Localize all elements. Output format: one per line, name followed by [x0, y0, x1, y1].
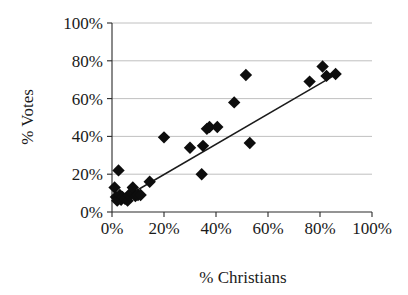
data-point: [184, 142, 196, 154]
scatter-chart: 0%20%40%60%80%100% 0%20%40%60%80%100% % …: [0, 0, 408, 295]
data-point: [303, 75, 315, 87]
x-tick-label: 0%: [101, 219, 124, 238]
y-tick-label: 100%: [63, 14, 103, 33]
data-point: [228, 96, 240, 108]
trend-line: [122, 73, 338, 199]
data-point: [240, 69, 252, 81]
data-markers: [108, 60, 341, 207]
y-tick-label: 80%: [72, 52, 103, 71]
data-point: [211, 121, 223, 133]
gridlines: [112, 23, 372, 174]
y-tick-label: 60%: [72, 90, 103, 109]
x-tick-label: 40%: [200, 219, 231, 238]
y-tick-label: 40%: [72, 127, 103, 146]
data-point: [329, 68, 341, 80]
x-tick-label: 20%: [148, 219, 179, 238]
data-point: [112, 164, 124, 176]
data-point: [158, 131, 170, 143]
tick-marks: [107, 23, 372, 217]
x-axis-title: % Christians: [199, 268, 286, 287]
y-tick-labels: 0%20%40%60%80%100%: [63, 14, 103, 222]
y-tick-label: 20%: [72, 165, 103, 184]
x-tick-label: 80%: [304, 219, 335, 238]
y-tick-label: 0%: [80, 203, 103, 222]
data-point: [244, 137, 256, 149]
data-point: [197, 140, 209, 152]
x-tick-label: 100%: [352, 219, 392, 238]
data-point: [196, 168, 208, 180]
x-tick-labels: 0%20%40%60%80%100%: [101, 219, 392, 238]
x-tick-label: 60%: [252, 219, 283, 238]
chart-canvas: 0%20%40%60%80%100% 0%20%40%60%80%100% % …: [0, 0, 408, 295]
y-axis-title: % Votes: [18, 89, 37, 145]
